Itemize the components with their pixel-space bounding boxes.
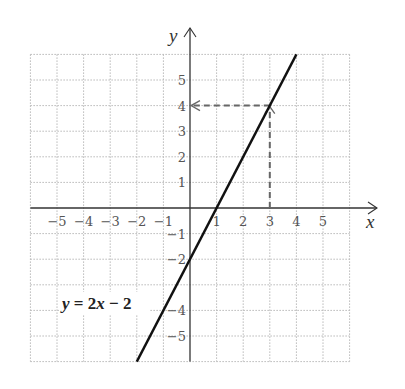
x-tick-label: −3 — [101, 214, 120, 229]
coordinate-plane: −5−4−3−2−11234554321−1−2−4−5 x y y = 2x … — [0, 0, 405, 389]
x-tick-label: −5 — [47, 214, 66, 229]
y-tick-label: −5 — [167, 329, 186, 344]
y-tick-label: 3 — [178, 124, 186, 139]
x-tick-label: 3 — [266, 214, 274, 229]
x-tick-label: 4 — [292, 214, 300, 229]
y-tick-label: −4 — [167, 303, 186, 318]
y-tick-label: 5 — [178, 73, 186, 88]
x-tick-label: −2 — [127, 214, 146, 229]
y-tick-label: −2 — [167, 252, 186, 267]
x-tick-label: 5 — [319, 214, 327, 229]
y-tick-label: 1 — [178, 175, 186, 190]
x-tick-label: 1 — [212, 214, 220, 229]
y-axis-label: y — [167, 25, 178, 46]
dashed-guides — [191, 101, 275, 208]
x-tick-label: 2 — [239, 214, 247, 229]
x-axis-label: x — [365, 211, 375, 232]
y-tick-label: 4 — [178, 99, 186, 114]
y-tick-label: 2 — [178, 150, 186, 165]
equation-label: y = 2x − 2 — [60, 294, 131, 313]
x-tick-label: −4 — [74, 214, 93, 229]
y-tick-label: −1 — [167, 227, 186, 242]
